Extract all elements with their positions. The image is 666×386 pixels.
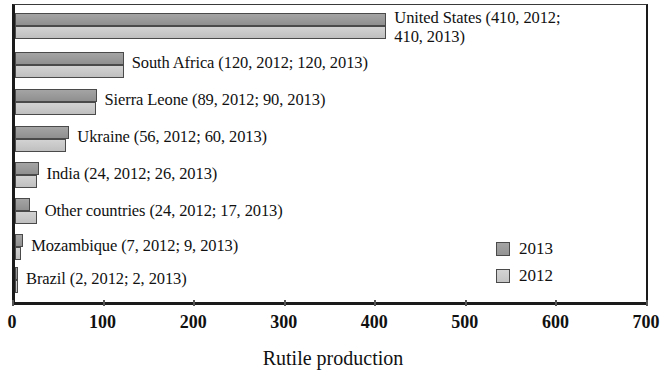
bar-2012[interactable]	[15, 139, 66, 152]
bar-2012[interactable]	[15, 26, 386, 39]
x-axis-title: Rutile production	[0, 347, 666, 370]
x-axis-tick-label: 0	[8, 312, 17, 333]
legend-label-2012: 2012	[519, 266, 553, 286]
x-axis-tick-labels: 0100200300400500600700	[0, 312, 666, 336]
x-axis-tick	[555, 300, 557, 306]
bar-2013[interactable]	[15, 89, 97, 102]
bar-2012[interactable]	[15, 175, 37, 188]
x-axis-tick	[284, 300, 286, 306]
bar-2013[interactable]	[15, 162, 39, 175]
bar-2013[interactable]	[15, 52, 124, 65]
x-axis-tick	[193, 300, 195, 306]
bar-data-label: Ukraine (56, 2012; 60, 2013)	[77, 127, 267, 146]
x-axis-tick-label: 200	[180, 312, 207, 333]
bar-2012[interactable]	[15, 102, 96, 115]
bar-data-label: United States (410, 2012; 410, 2013)	[394, 8, 560, 46]
x-axis-tick-label: 600	[542, 312, 569, 333]
bar-2012[interactable]	[15, 280, 18, 293]
bar-data-label: Brazil (2, 2012; 2, 2013)	[26, 269, 187, 288]
bar-data-label: South Africa (120, 2012; 120, 2013)	[132, 53, 368, 72]
bar-2012[interactable]	[15, 65, 124, 78]
bar-data-label: Sierra Leone (89, 2012; 90, 2013)	[105, 90, 326, 109]
legend-swatch-2013-icon	[496, 242, 510, 256]
x-axis-tick-label: 400	[361, 312, 388, 333]
bar-2012[interactable]	[15, 247, 21, 260]
x-axis-tick-label: 700	[633, 312, 660, 333]
x-axis-tick-label: 500	[451, 312, 478, 333]
x-axis-ticks	[12, 300, 648, 308]
x-axis-tick	[103, 300, 105, 306]
bar-data-label: India (24, 2012; 26, 2013)	[47, 164, 218, 183]
bar-2012[interactable]	[15, 211, 37, 224]
bar-2013[interactable]	[15, 234, 23, 247]
bar-data-label: Mozambique (7, 2012; 9, 2013)	[31, 236, 238, 255]
x-axis-tick-label: 300	[270, 312, 297, 333]
legend-entry-2012: 2012	[496, 262, 592, 289]
rutile-production-chart: United States (410, 2012; 410, 2013)Sout…	[0, 0, 666, 386]
plot-area: United States (410, 2012; 410, 2013)Sout…	[12, 4, 648, 305]
legend-swatch-2012-icon	[496, 269, 510, 283]
x-axis-tick	[646, 300, 648, 306]
legend-entry-2013: 2013	[496, 235, 592, 262]
bar-2013[interactable]	[15, 13, 386, 26]
x-axis-tick	[465, 300, 467, 306]
x-axis-tick	[374, 300, 376, 306]
x-axis-tick-label: 100	[89, 312, 116, 333]
legend-label-2013: 2013	[519, 239, 553, 259]
bar-data-label: Other countries (24, 2012; 17, 2013)	[45, 201, 283, 220]
x-axis-tick	[12, 300, 14, 306]
bar-2013[interactable]	[15, 126, 69, 139]
bar-2013[interactable]	[15, 267, 18, 280]
chart-legend: 2013 2012	[496, 235, 592, 289]
bar-2013[interactable]	[15, 198, 30, 211]
